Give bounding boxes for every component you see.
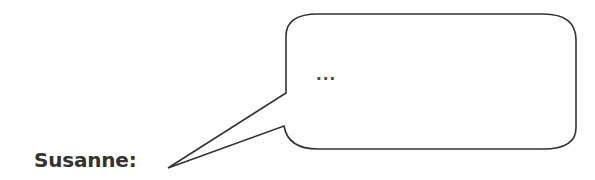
speech-bubble-exercise: ... Susanne: <box>0 0 595 180</box>
speaker-label: Susanne: <box>34 148 136 172</box>
speech-bubble-outline <box>168 14 576 168</box>
bubble-text: ... <box>316 66 336 84</box>
